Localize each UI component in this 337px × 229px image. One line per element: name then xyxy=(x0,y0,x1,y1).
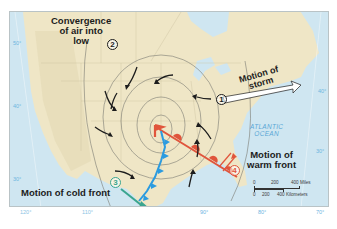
callout-3: 3 xyxy=(110,177,121,188)
callout-1: 1 xyxy=(216,94,227,105)
ocean-label: ATLANTIC OCEAN xyxy=(250,123,283,137)
ocean-label-line2: OCEAN xyxy=(250,130,283,137)
lon-label-90: 90° xyxy=(200,209,208,215)
lat-label-left-50: 50° xyxy=(13,40,21,46)
lon-label-120: 120° xyxy=(20,209,31,215)
scale-miles-400: 400 Miles xyxy=(291,180,311,185)
lat-label-right-30: 30° xyxy=(316,148,324,154)
scale-km-400: 400 Kilometers xyxy=(277,192,308,197)
warm-front-label-line2: warm front xyxy=(247,160,296,170)
lon-label-80: 80° xyxy=(258,209,266,215)
scale-miles-200: 200 xyxy=(271,180,279,185)
scale-km-0: 0 xyxy=(253,192,256,197)
warm-front-motion-label: Motion of warm front xyxy=(247,150,296,170)
scale-miles-0: 0 xyxy=(253,180,256,185)
lat-label-right-40: 40° xyxy=(318,88,326,94)
convergence-label-line3: low xyxy=(51,36,111,46)
cold-front-motion-label: Motion of cold front xyxy=(21,188,110,198)
convergence-label: Convergence of air into low xyxy=(51,16,111,46)
lat-label-left-30: 30° xyxy=(13,176,21,182)
scale-bar: 0 200 400 Miles 0 200 400 Kilometers xyxy=(253,180,323,202)
lon-label-70: 70° xyxy=(316,209,324,215)
lon-label-110: 110° xyxy=(82,209,93,215)
lat-label-left-40: 40° xyxy=(13,103,21,109)
callout-4: 4 xyxy=(229,165,240,176)
ocean-label-line1: ATLANTIC xyxy=(250,123,283,130)
scale-km-200: 200 xyxy=(262,192,270,197)
callout-2: 2 xyxy=(107,39,118,50)
